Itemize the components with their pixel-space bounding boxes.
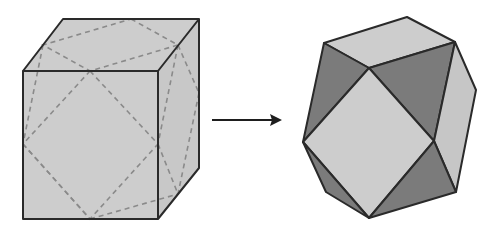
diagram-svg [0, 0, 491, 229]
cube-front-face [23, 71, 158, 219]
cube [23, 19, 199, 219]
transform-arrow [212, 114, 282, 126]
diagram-canvas [0, 0, 491, 229]
cuboctahedron [303, 17, 476, 218]
